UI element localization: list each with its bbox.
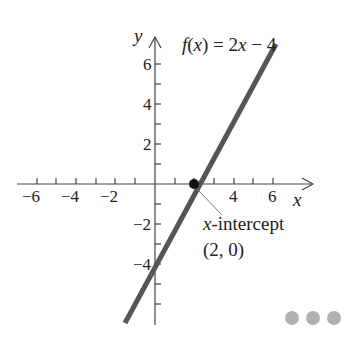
y-tick-label: −2 (133, 216, 151, 233)
x-intercept-label: x-intercept (203, 214, 284, 233)
more-options-icon[interactable] (285, 311, 341, 325)
x-tick-label: 6 (268, 188, 277, 205)
func-eq: ) = 2 (202, 34, 238, 55)
func-x2: x (238, 34, 246, 55)
func-x: x (194, 34, 202, 55)
chart-figure: f(x) = 2x − 4 y x −6 −4 −2 4 6 6 4 2 −2 … (0, 0, 355, 345)
x-tick-label: −6 (22, 188, 40, 205)
y-tick-label: 2 (143, 136, 152, 153)
x-intercept-point (189, 179, 199, 189)
y-tick-label: 6 (143, 56, 152, 73)
x-tick-label: 4 (229, 188, 238, 205)
x-intercept-coord: (2, 0) (203, 240, 244, 259)
intercept-leader-line (197, 189, 222, 215)
x-tick-label: −4 (61, 188, 79, 205)
func-tail: − 4 (247, 34, 277, 55)
y-axis-label: y (134, 26, 142, 45)
x-axis-label: x (293, 190, 301, 209)
y-tick-label: 4 (143, 96, 152, 113)
x-tick-label: −2 (100, 188, 118, 205)
intercept-rest: -intercept (211, 213, 284, 234)
y-tick-label: −4 (133, 256, 151, 273)
plot-area (0, 0, 355, 345)
function-label: f(x) = 2x − 4 (182, 35, 276, 54)
